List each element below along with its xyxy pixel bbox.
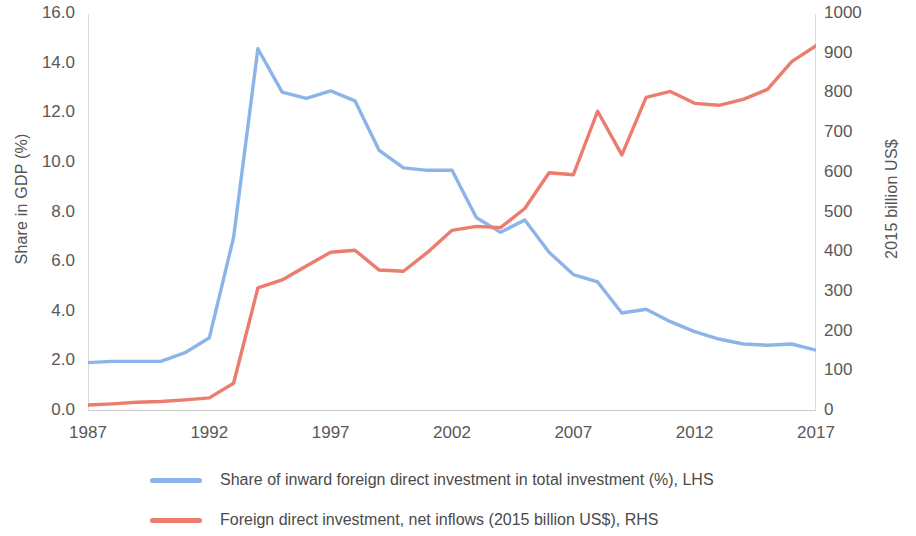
left-tick-label: 14.0 (13, 53, 75, 73)
x-tick-label: 1992 (169, 423, 249, 443)
x-tick-label: 2017 (776, 423, 856, 443)
left-tick-label: 16.0 (13, 3, 75, 23)
chart-container: Share in GDP (%) 2015 billion US$ 0.02.0… (0, 0, 916, 536)
left-tick-label: 12.0 (13, 102, 75, 122)
series-line-blue (88, 49, 816, 363)
right-tick-label: 1000 (824, 3, 886, 23)
left-tick-label: 8.0 (13, 202, 75, 222)
right-tick-label: 700 (824, 122, 886, 142)
legend-item-blue[interactable]: Share of inward foreign direct investmen… (150, 472, 714, 488)
left-tick-label: 6.0 (13, 251, 75, 271)
right-tick-label: 200 (824, 321, 886, 341)
left-tick-label: 4.0 (13, 301, 75, 321)
x-tick-label: 2002 (412, 423, 492, 443)
right-tick-label: 300 (824, 281, 886, 301)
x-tick-label: 2007 (533, 423, 613, 443)
right-tick-label: 500 (824, 202, 886, 222)
legend-swatch-red (150, 518, 202, 523)
right-tick-label: 600 (824, 162, 886, 182)
legend-item-red[interactable]: Foreign direct investment, net inflows (… (150, 512, 658, 528)
legend-label-red: Foreign direct investment, net inflows (… (220, 512, 658, 528)
legend-swatch-blue (150, 478, 202, 483)
right-tick-label: 400 (824, 241, 886, 261)
right-tick-label: 100 (824, 360, 886, 380)
right-tick-label: 0 (824, 400, 886, 420)
left-tick-label: 10.0 (13, 152, 75, 172)
plot-svg (88, 14, 816, 411)
left-tick-label: 0.0 (13, 400, 75, 420)
legend-label-blue: Share of inward foreign direct investmen… (220, 472, 714, 488)
x-tick-label: 1987 (48, 423, 128, 443)
right-tick-label: 900 (824, 43, 886, 63)
x-tick-label: 1997 (291, 423, 371, 443)
x-tick-label: 2012 (655, 423, 735, 443)
left-tick-label: 2.0 (13, 350, 75, 370)
right-tick-label: 800 (824, 82, 886, 102)
series-line-red (88, 46, 816, 405)
plot-area (88, 14, 816, 411)
